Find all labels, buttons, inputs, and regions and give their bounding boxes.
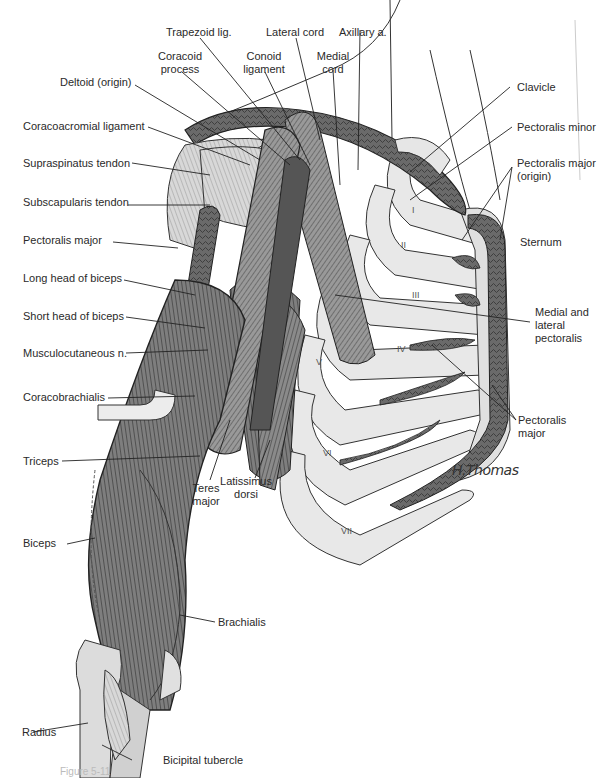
rib-numeral-4: IV bbox=[397, 344, 406, 354]
rib-numeral-6: VI bbox=[323, 448, 332, 458]
label-deltoid-origin: Deltoid (origin) bbox=[60, 76, 132, 89]
label-lateral-cord: Lateral cord bbox=[266, 26, 324, 39]
rib-numeral-3: III bbox=[412, 290, 420, 300]
rib-numeral-7: VII bbox=[341, 526, 352, 536]
label-radius: Radius bbox=[22, 726, 56, 739]
label-pectoralis-major-origin: Pectoralis major (origin) bbox=[517, 157, 596, 183]
rib-numeral-1: I bbox=[412, 205, 415, 215]
label-axillary-a: Axillary a. bbox=[339, 26, 387, 39]
anatomy-figure: Trapezoid lig. Lateral cord Axillary a. … bbox=[0, 0, 610, 778]
rib-numeral-2: II bbox=[401, 240, 406, 250]
label-clavicle: Clavicle bbox=[517, 81, 556, 94]
label-pectoralis-major-right: Pectoralis major bbox=[518, 414, 566, 440]
label-coracoacromial-ligament: Coracoacromial ligament bbox=[23, 120, 145, 133]
label-short-head-of-biceps: Short head of biceps bbox=[23, 310, 124, 323]
anatomy-illustration bbox=[0, 0, 610, 778]
label-bicipital-tubercle: Bicipital tubercle bbox=[163, 754, 243, 767]
label-subscapularis-tendon: Subscapularis tendon bbox=[23, 196, 129, 209]
label-long-head-of-biceps: Long head of biceps bbox=[23, 272, 122, 285]
rib-numeral-5: V bbox=[316, 357, 322, 367]
label-medial-and-lateral-pectoralis: Medial and lateral pectoralis bbox=[535, 306, 589, 345]
label-sternum: Sternum bbox=[520, 236, 562, 249]
label-musculocutaneous-n: Musculocutaneous n. bbox=[23, 347, 127, 360]
label-biceps: Biceps bbox=[23, 537, 56, 550]
label-pectoralis-minor: Pectoralis minor bbox=[517, 121, 596, 134]
label-latissimus-dorsi: Latissimus dorsi bbox=[216, 475, 276, 501]
label-trapezoid-lig: Trapezoid lig. bbox=[166, 26, 232, 39]
label-supraspinatus-tendon: Supraspinatus tendon bbox=[23, 157, 130, 170]
label-pectoralis-major: Pectoralis major bbox=[23, 234, 102, 247]
label-conoid-ligament: Conoid ligament bbox=[236, 50, 292, 76]
label-coracobrachialis: Coracobrachialis bbox=[23, 391, 105, 404]
label-medial-cord: Medial cord bbox=[313, 50, 353, 76]
artist-signature: H.Thomas bbox=[452, 462, 518, 478]
figure-caption: Figure 5-11 bbox=[60, 766, 110, 777]
label-brachialis: Brachialis bbox=[218, 616, 266, 629]
label-triceps: Triceps bbox=[23, 455, 59, 468]
label-coracoid-process: Coracoid process bbox=[152, 50, 208, 76]
